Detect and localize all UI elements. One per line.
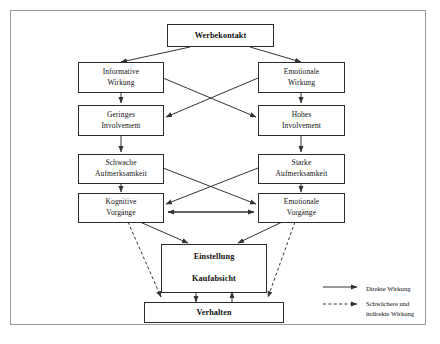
node-schwache-aufmerksamkeit-line2: Aufmerksamkeit xyxy=(95,169,147,180)
node-werbekontakt[interactable]: Werbekontakt xyxy=(167,24,274,47)
node-werbekontakt-label: Werbekontakt xyxy=(195,30,247,42)
node-emotionale-vorgaenge-line2: Vorgänge xyxy=(287,208,316,219)
node-schwache-aufmerksamkeit[interactable]: Schwache Aufmerksamkeit xyxy=(78,154,164,184)
node-emotionale-wirkung-line1: Emotionale xyxy=(284,67,320,78)
node-informative-wirkung-line1: Informative xyxy=(103,67,140,78)
node-geringes-involvement-line1: Geringes xyxy=(107,110,135,121)
node-informative-wirkung[interactable]: Informative Wirkung xyxy=(78,62,164,93)
node-emotionale-wirkung-line2: Wirkung xyxy=(288,78,315,89)
node-emotionale-vorgaenge[interactable]: Emotionale Vorgänge xyxy=(258,193,345,223)
node-starke-aufmerksamkeit-line1: Starke xyxy=(292,158,312,169)
legend-indirect-text-line1: Schwächere und xyxy=(366,299,432,309)
node-geringes-involvement-line2: Involvement xyxy=(101,121,140,132)
node-hohes-involvement[interactable]: Hohes Involvement xyxy=(258,105,345,136)
legend-direct-wirkung: Direkte Wirkung xyxy=(366,284,430,294)
legend-direct-text: Direkte Wirkung xyxy=(366,284,430,294)
node-starke-aufmerksamkeit-line2: Aufmerksamkeit xyxy=(276,169,328,180)
node-kognitive-vorgaenge-line2: Vorgänge xyxy=(106,208,135,219)
node-einstellung-label: Einstellung xyxy=(194,251,235,263)
legend-indirekte-wirkung: Schwächere und indirekte Wirkung xyxy=(366,299,432,319)
node-kognitive-vorgaenge[interactable]: Kognitive Vorgänge xyxy=(78,193,164,223)
node-kognitive-vorgaenge-line1: Kognitive xyxy=(106,197,137,208)
node-informative-wirkung-line2: Wirkung xyxy=(107,78,134,89)
diagram-canvas: Werbekontakt Informative Wirkung Emotion… xyxy=(0,0,440,344)
node-starke-aufmerksamkeit[interactable]: Starke Aufmerksamkeit xyxy=(258,154,345,184)
node-kaufabsicht-label: Kaufabsicht xyxy=(192,273,236,285)
node-geringes-involvement[interactable]: Geringes Involvement xyxy=(78,105,164,136)
node-hohes-involvement-line2: Involvement xyxy=(282,121,321,132)
node-emotionale-vorgaenge-line1: Emotionale xyxy=(284,197,320,208)
legend-indirect-text-line2: indirekte Wirkung xyxy=(366,309,432,319)
node-verhalten[interactable]: Verhalten xyxy=(144,302,284,323)
node-verhalten-label: Verhalten xyxy=(196,307,231,319)
node-einstellung-kaufabsicht[interactable]: Einstellung Kaufabsicht xyxy=(161,244,267,293)
node-schwache-aufmerksamkeit-line1: Schwache xyxy=(105,158,136,169)
node-emotionale-wirkung[interactable]: Emotionale Wirkung xyxy=(258,62,345,93)
node-hohes-involvement-line1: Hohes xyxy=(292,110,312,121)
